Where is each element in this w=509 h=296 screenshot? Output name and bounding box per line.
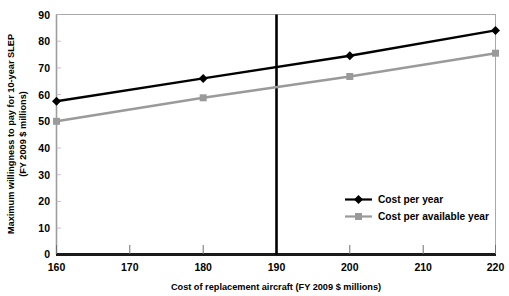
y-tick-label-20: 20 [38,195,50,207]
y-tick-label-10: 10 [38,222,50,234]
legend-label-cost-per-available-year: Cost per available year [378,211,489,222]
y-tick-label-50: 50 [38,115,50,127]
y-tick-label-40: 40 [38,142,50,154]
y-tick-label-60: 60 [38,89,50,101]
x-axis-label: Cost of replacement aircraft (FY 2009 $ … [171,282,381,292]
y-tick-label-0: 0 [44,248,50,260]
y-tick-label-70: 70 [38,62,50,74]
line-chart: 90 80 70 60 50 40 30 20 10 0 160 170 180… [0,0,509,296]
y-axis-label-line1: Maximum willingness to pay for 10-year S… [6,34,16,234]
x-tick-label-200: 200 [341,261,359,273]
x-tick-label-160: 160 [48,261,66,273]
y-tick-label-30: 30 [38,169,50,181]
x-tick-label-220: 220 [487,261,505,273]
legend-label-cost-per-year: Cost per year [378,194,443,205]
x-tick-label-180: 180 [194,261,212,273]
y-axis-label-line2: (FY 2009 $ millions) [18,91,28,177]
legend-marker-square-icon [355,213,362,220]
x-tick-label-190: 190 [268,261,286,273]
x-tick-label-170: 170 [121,261,139,273]
y-tick-label-80: 80 [38,35,50,47]
x-tick-label-210: 210 [414,261,432,273]
y-tick-label-90: 90 [38,9,50,21]
chart-container: 90 80 70 60 50 40 30 20 10 0 160 170 180… [0,0,509,296]
